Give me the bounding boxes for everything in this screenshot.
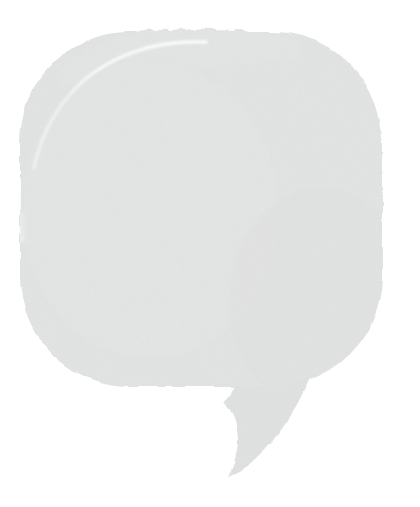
artwork-canvas: Speech bubble: [0, 0, 420, 507]
speech-bubble-graphic: Speech bubble: [0, 0, 420, 507]
